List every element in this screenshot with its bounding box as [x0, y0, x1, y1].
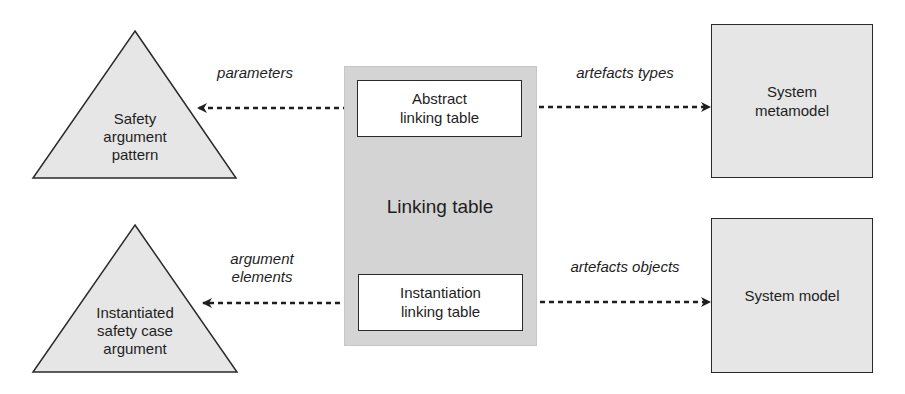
system-metamodel-box: System metamodel [711, 24, 873, 178]
abstract-linking-table-box: Abstract linking table [357, 80, 522, 137]
instantiated-safety-case-label: Instantiated safety case argument [75, 304, 195, 358]
instantiation-linking-table-box: Instantiation linking table [358, 274, 523, 331]
safety-argument-pattern-label: Safety argument pattern [85, 110, 185, 164]
artefacts-types-label: artefacts types [555, 64, 695, 82]
artefacts-objects-label: artefacts objects [550, 258, 700, 276]
system-model-box: System model [711, 218, 873, 373]
parameters-label: parameters [205, 64, 305, 82]
argument-elements-label: argument elements [212, 250, 312, 286]
linking-table-label: Linking table [344, 196, 536, 219]
